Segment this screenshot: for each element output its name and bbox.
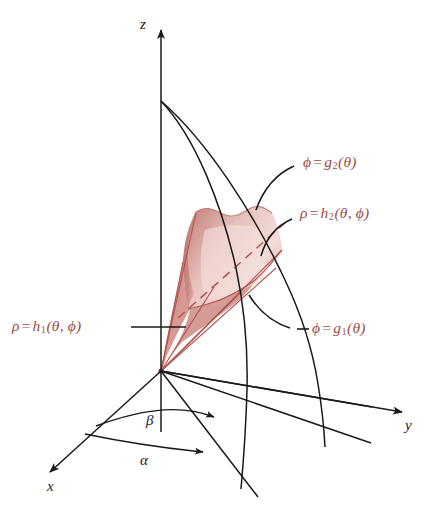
label-phi-g1: ϕ=g1(θ)	[312, 319, 366, 337]
axis-label-z: z	[140, 16, 146, 33]
label-rho-h2-fn: h	[321, 204, 329, 221]
label-phi-g1-lhs: ϕ	[312, 319, 320, 336]
label-phi-g2-op: =	[311, 153, 324, 170]
label-phi-g1-args: (θ)	[347, 319, 366, 336]
leader-phi-g1	[249, 295, 290, 328]
label-rho-h1-fn: h	[33, 317, 41, 334]
label-phi-g1-op: =	[320, 319, 333, 336]
label-rho-h2-lhs: ρ	[300, 204, 308, 221]
label-phi-g1-fn: g	[333, 319, 341, 336]
label-rho-h1: ρ=h1(θ, ϕ)	[12, 317, 81, 335]
label-rho-h1-lhs: ρ	[12, 317, 20, 334]
leader-phi-g2	[256, 166, 294, 210]
base-ray-mid	[161, 371, 372, 407]
axis-label-x: x	[47, 478, 54, 495]
label-rho-h1-args: (θ, ϕ)	[47, 317, 82, 334]
label-rho-h2-args: (θ, ϕ)	[335, 204, 370, 221]
angle-arc-alpha	[85, 434, 203, 452]
base-ray-beta	[161, 371, 258, 497]
label-phi-g2-fn: g	[324, 153, 332, 170]
label-phi-g2-lhs: ϕ	[303, 153, 311, 170]
label-rho-h2-op: =	[308, 204, 321, 221]
angle-label-alpha: α	[140, 452, 148, 469]
label-phi-g2-args: (θ)	[338, 153, 357, 170]
label-rho-h2: ρ=h2(θ, ϕ)	[300, 204, 369, 222]
base-ray-alpha	[161, 371, 371, 443]
axis-label-y: y	[405, 417, 412, 434]
label-phi-g2: ϕ=g2(θ)	[303, 153, 357, 171]
angle-label-beta: β	[146, 412, 153, 429]
surface-highlight	[201, 225, 266, 300]
spherical-coordinates-diagram	[0, 0, 442, 513]
label-rho-h1-op: =	[20, 317, 33, 334]
